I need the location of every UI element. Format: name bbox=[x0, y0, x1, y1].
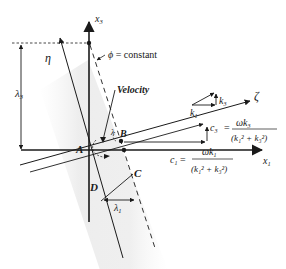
svg-text:=: = bbox=[180, 154, 186, 165]
zeta-label: ζ bbox=[254, 89, 260, 103]
eta-label: η bbox=[45, 51, 51, 65]
c3-formula: c3 = ωk3 (k₁² + k₃²) bbox=[210, 117, 277, 143]
point-a-label: A bbox=[75, 143, 83, 155]
x1-axis-label: x1 bbox=[262, 155, 271, 167]
svg-text:c3: c3 bbox=[210, 122, 217, 134]
svg-text:(k₁² + k₃²): (k₁² + k₃²) bbox=[231, 133, 267, 143]
point-d-label: D bbox=[89, 181, 98, 193]
wavenumber-vectors bbox=[192, 93, 216, 105]
phi-constant-label: ϕ = constant bbox=[108, 49, 157, 60]
wave-diagram: x3 x1 η ζ ϕ = constant Velocity λ3 λ A B… bbox=[0, 0, 286, 269]
svg-text:ωk1: ωk1 bbox=[202, 146, 217, 158]
lambda-angle-label: λ bbox=[110, 128, 115, 137]
x3-axis-label: x3 bbox=[94, 13, 103, 25]
svg-text:(k₁² + k₃²): (k₁² + k₃²) bbox=[191, 164, 227, 174]
svg-text:ωk3: ωk3 bbox=[236, 117, 251, 129]
k3-label: k3 bbox=[219, 95, 226, 107]
point-c-label: C bbox=[134, 167, 142, 179]
velocity-label: Velocity bbox=[117, 84, 150, 95]
svg-text:c1: c1 bbox=[170, 154, 177, 166]
k1-label: k1 bbox=[190, 107, 197, 119]
lambda3-label: λ3 bbox=[14, 87, 24, 100]
svg-text:=: = bbox=[224, 122, 230, 133]
point-b-label: B bbox=[119, 128, 127, 139]
